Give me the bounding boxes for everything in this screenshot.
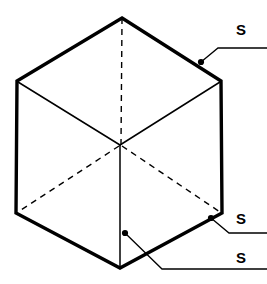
cube-outline-hexagon <box>16 18 222 268</box>
leader-line-top <box>198 48 267 65</box>
hidden-edge-center-to-lower-left <box>18 146 119 212</box>
label-surface-right: S <box>236 211 246 226</box>
label-surface-front: S <box>236 250 246 265</box>
leader-top-dot <box>198 59 204 65</box>
hidden-edge-center-to-top <box>121 20 122 145</box>
inner-edge-center-to-upper-right <box>120 82 220 145</box>
figure-canvas: S S S <box>0 0 267 284</box>
label-surface-top: S <box>236 22 246 37</box>
leader-bottom-dot <box>122 230 128 236</box>
hidden-edge-center-to-lower-right <box>122 146 220 212</box>
leader-middle-dot <box>208 215 214 221</box>
leader-top-path <box>201 48 267 62</box>
visible-inner-edges-group <box>18 82 220 267</box>
inner-edge-center-to-upper-left <box>18 82 120 145</box>
hidden-edges-group <box>18 20 220 212</box>
cube-diagram <box>0 0 267 284</box>
